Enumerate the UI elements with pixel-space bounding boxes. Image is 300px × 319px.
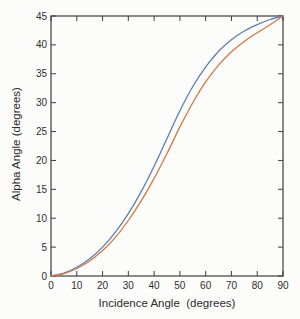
y-tick-label: 40 (36, 39, 48, 50)
x-tick-label: 50 (174, 280, 186, 291)
y-tick-label: 25 (36, 126, 48, 137)
y-tick-label: 10 (36, 213, 48, 224)
y-tick-label: 5 (41, 242, 47, 253)
x-tick-label: 30 (123, 280, 135, 291)
x-tick-label: 40 (149, 280, 161, 291)
y-tick-label: 0 (41, 271, 47, 282)
x-tick-label: 60 (200, 280, 212, 291)
y-tick-label: 30 (36, 97, 48, 108)
x-tick-label: 0 (48, 280, 54, 291)
y-axis-label: Alpha Angle (degrees) (10, 54, 22, 234)
y-tick-label: 45 (36, 11, 48, 22)
x-tick-label: 70 (226, 280, 238, 291)
y-tick-label: 15 (36, 184, 48, 195)
y-tick-label: 20 (36, 155, 48, 166)
x-tick-label: 90 (277, 280, 289, 291)
line-chart: 0102030405060708090051015202530354045 (0, 0, 300, 319)
figure: 0102030405060708090051015202530354045 In… (0, 0, 300, 319)
y-tick-label: 35 (36, 68, 48, 79)
x-tick-label: 20 (97, 280, 109, 291)
x-axis-label: Incidence Angle (degrees) (51, 297, 283, 309)
x-tick-label: 80 (252, 280, 264, 291)
x-tick-label: 10 (71, 280, 83, 291)
